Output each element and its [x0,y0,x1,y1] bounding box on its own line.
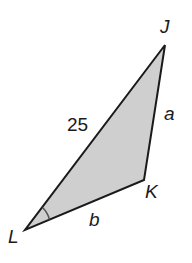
vertex-label-k: K [145,182,158,201]
side-label-jk: a [164,104,175,123]
side-label-kl: b [89,210,100,229]
triangle-jkl [25,45,165,230]
vertex-label-l: L [8,227,19,246]
side-label-jl: 25 [67,115,88,134]
vertex-label-j: J [160,17,170,36]
